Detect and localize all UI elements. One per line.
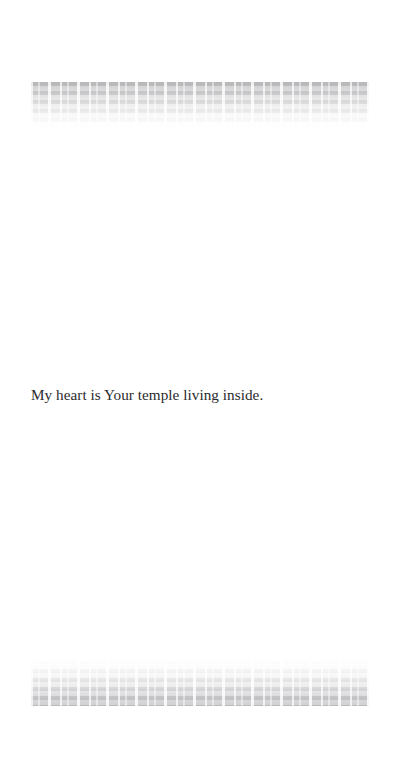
body-text-line: My heart is Your temple living inside. — [31, 385, 371, 405]
bottom-bleedthrough-band — [31, 660, 369, 706]
top-bleedthrough-band — [31, 82, 369, 128]
bleed-wordgaps-bottom — [31, 660, 369, 706]
bleed-wordgaps-top — [31, 82, 369, 128]
scanned-page: My heart is Your temple living inside. — [0, 0, 400, 765]
